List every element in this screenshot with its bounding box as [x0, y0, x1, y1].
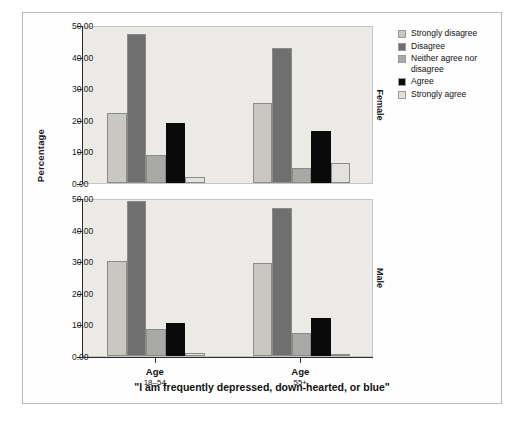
bar [107, 113, 127, 183]
legend-item[interactable]: Disagree [398, 41, 506, 52]
bar [272, 208, 292, 356]
y-tick-label: 0.00 [72, 179, 73, 189]
legend-item[interactable]: Neither agree nor disagree [398, 53, 506, 74]
y-tick-label: 50.00 [72, 21, 73, 31]
bar [146, 155, 166, 183]
bar [253, 103, 273, 183]
y-tick-label: 30.00 [72, 84, 73, 94]
bar [292, 168, 312, 183]
strip-female-text: Female [375, 89, 385, 120]
x-tick-mark [155, 357, 156, 363]
y-tick-label: 30.00 [72, 257, 73, 267]
legend-item-label: Disagree [411, 41, 445, 52]
y-axis-female: 0.0010.0020.0030.0040.0050.00 [82, 26, 83, 184]
legend-item-label: Agree [411, 76, 434, 87]
bar [166, 123, 186, 183]
strip-male-text: Male [375, 268, 385, 288]
chart-title: "I am frequently depressed, down-hearted… [22, 381, 502, 393]
strip-label-male: Male [373, 199, 387, 357]
strip-label-female: Female [373, 26, 387, 184]
y-tick-label: 20.00 [72, 289, 73, 299]
bar [185, 353, 205, 356]
y-tick-label: 50.00 [72, 194, 73, 204]
x-tick-mark [300, 357, 301, 363]
bar [185, 177, 205, 183]
legend-swatch-icon [398, 55, 406, 63]
legend-swatch-icon [398, 78, 406, 86]
bar [127, 34, 147, 183]
bar [331, 163, 351, 183]
bar [146, 329, 166, 356]
bar [292, 333, 312, 356]
y-tick-label: 40.00 [72, 226, 73, 236]
y-tick-label: 10.00 [72, 320, 73, 330]
y-axis-title: Percentage [35, 96, 46, 216]
legend-item[interactable]: Strongly agree [398, 89, 506, 100]
y-axis-male: 0.0010.0020.0030.0040.0050.00 [82, 199, 83, 357]
legend-item[interactable]: Agree [398, 76, 506, 87]
bar [166, 323, 186, 356]
legend-item-label: Strongly disagree [411, 28, 477, 39]
legend-item-label: Strongly agree [411, 89, 466, 100]
figure-canvas: Percentage 0.0010.0020.0030.0040.0050.00… [0, 0, 513, 426]
bar [127, 201, 147, 356]
bar [311, 131, 331, 183]
panel-female [82, 26, 373, 184]
bar [272, 48, 292, 183]
bars-male [83, 200, 372, 356]
y-tick-label: 40.00 [72, 53, 73, 63]
x-axis: Age18–54Age55+ [82, 357, 373, 358]
bars-female [83, 27, 372, 183]
legend-swatch-icon [398, 30, 406, 38]
legend-swatch-icon [398, 43, 406, 51]
legend-item[interactable]: Strongly disagree [398, 28, 506, 39]
y-tick-label: 20.00 [72, 116, 73, 126]
y-tick-label: 0.00 [72, 352, 73, 362]
x-tick-label-line1: Age [144, 366, 166, 377]
y-tick-label: 10.00 [72, 147, 73, 157]
legend-item-label: Neither agree nor disagree [411, 53, 506, 74]
bar [107, 261, 127, 356]
legend-swatch-icon [398, 91, 406, 99]
panel-male [82, 199, 373, 357]
x-tick-label-line1: Age [291, 366, 309, 377]
bar [331, 354, 351, 356]
legend: Strongly disagreeDisagreeNeither agree n… [398, 28, 506, 101]
bar [311, 318, 331, 356]
bar [253, 263, 273, 356]
